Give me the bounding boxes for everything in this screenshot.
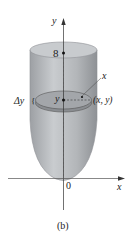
top-value-label: 8: [53, 47, 59, 59]
thickness-brace: {: [31, 96, 35, 106]
point-xy: [81, 96, 83, 98]
point-8: [62, 52, 65, 55]
slice-height-label: y: [54, 93, 60, 104]
radius-label: x: [101, 70, 107, 81]
paraboloid-diagram: y 8 x y (x, y) Δy { 0 x (b): [0, 0, 131, 237]
thickness-label: Δy: [13, 95, 25, 106]
point-label: (x, y): [93, 95, 113, 106]
y-axis-arrow: [61, 18, 65, 25]
figure-caption: (b): [57, 220, 69, 232]
x-axis-label: x: [116, 181, 122, 192]
origin-label: 0: [66, 180, 71, 191]
y-axis-label: y: [51, 15, 57, 26]
